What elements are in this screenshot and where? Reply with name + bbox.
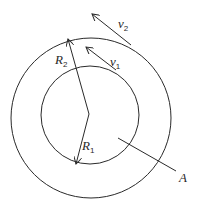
outer-circle bbox=[11, 38, 171, 198]
diagram-canvas bbox=[0, 0, 197, 210]
label-v2-sub: 2 bbox=[124, 24, 128, 33]
label-r1-sub: 1 bbox=[90, 146, 94, 155]
label-a: A bbox=[179, 171, 187, 184]
label-v1: v1 bbox=[110, 55, 120, 71]
label-r1: R1 bbox=[82, 139, 94, 155]
label-v2: v2 bbox=[118, 17, 128, 33]
label-r1-base: R bbox=[82, 138, 90, 153]
label-r2-sub: 2 bbox=[63, 60, 67, 69]
label-v1-sub: 1 bbox=[116, 62, 120, 71]
label-r2-base: R bbox=[55, 52, 63, 67]
label-r2: R2 bbox=[55, 53, 67, 69]
radius-r2-arrow bbox=[68, 39, 89, 114]
label-a-base: A bbox=[179, 170, 187, 185]
